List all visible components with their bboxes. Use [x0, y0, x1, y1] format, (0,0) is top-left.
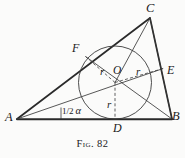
segment-ac [17, 18, 150, 119]
label-vertex-c: C [146, 2, 154, 15]
half-fraction: 1/2 [62, 107, 74, 116]
label-radius-right: r [136, 66, 140, 77]
figure-caption: Fig. 82 [0, 138, 185, 149]
label-point-d: D [113, 122, 122, 134]
caption-prefix: Fig. [77, 138, 94, 149]
label-vertex-a: A [5, 111, 13, 124]
alpha-symbol: α [76, 105, 82, 116]
figure-82: A B C D E F O r r r 1/2α Fig. 82 [0, 0, 185, 158]
label-half-angle: 1/2α [62, 106, 81, 117]
bisector-from-a [17, 69, 163, 120]
caption-number: 82 [97, 138, 108, 149]
bisector-from-b [86, 57, 173, 120]
label-radius-left: r [100, 66, 104, 77]
label-radius-bottom: r [107, 99, 111, 110]
label-point-e: E [167, 64, 174, 76]
label-vertex-b: B [172, 110, 180, 123]
geometry-drawing [0, 0, 185, 158]
label-center-o: O [113, 65, 121, 77]
label-point-f: F [72, 42, 79, 54]
